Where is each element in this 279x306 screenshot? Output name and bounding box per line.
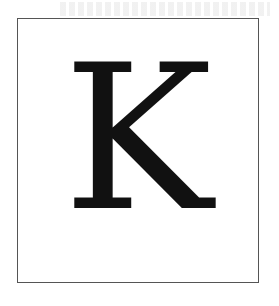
letter-card-frame: K [17, 18, 259, 283]
scan-bleed-through [60, 2, 270, 16]
letter-glyph: K [18, 39, 258, 239]
